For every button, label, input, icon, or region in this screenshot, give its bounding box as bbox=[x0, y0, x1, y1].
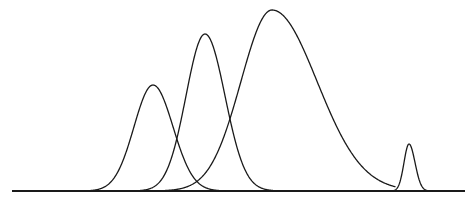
peak-4-curve bbox=[390, 144, 432, 191]
peak-chart bbox=[0, 0, 476, 201]
peak-3-curve bbox=[145, 10, 395, 191]
peak-1-curve bbox=[90, 85, 225, 191]
peak-curves bbox=[90, 10, 432, 191]
